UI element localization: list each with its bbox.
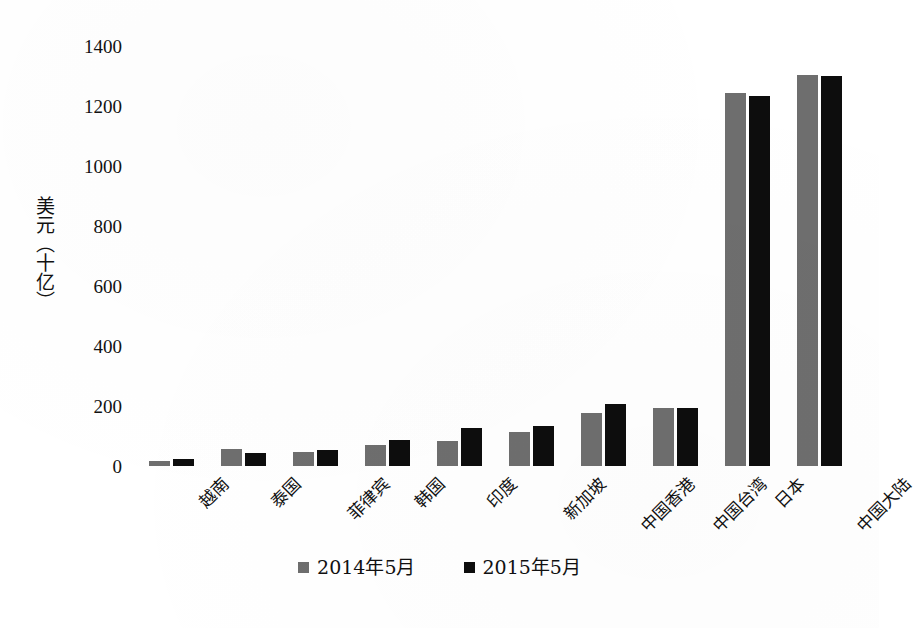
x-tick-label: 越南 <box>195 474 232 511</box>
chart-legend: 2014年5月2015年5月 <box>0 558 879 577</box>
y-tick-label: 1200 <box>60 97 122 116</box>
y-tick-label: 600 <box>60 277 122 296</box>
legend-label: 2015年5月 <box>483 558 581 577</box>
y-tick-label: 800 <box>60 217 122 236</box>
legend-item[interactable]: 2015年5月 <box>464 558 581 577</box>
x-tick-label: 菲律宾 <box>344 474 393 523</box>
y-tick-label: 1400 <box>60 37 122 56</box>
y-axis-tick-labels: 1400120010008006004002000 <box>60 0 122 628</box>
legend-swatch-icon <box>298 562 309 573</box>
x-tick-label: 泰国 <box>267 474 304 511</box>
y-axis-title: 美元（十亿） <box>24 196 54 310</box>
legend-swatch-icon <box>464 562 475 573</box>
x-tick-label: 中国台湾 <box>709 474 770 535</box>
y-tick-label: 0 <box>60 457 122 476</box>
x-tick-label: 中国香港 <box>637 474 698 535</box>
x-tick-label: 新加坡 <box>560 474 609 523</box>
x-axis-tick-labels: 越南泰国菲律宾韩国印度新加坡中国香港中国台湾日本中国大陆 <box>135 0 855 628</box>
y-tick-label: 400 <box>60 337 122 356</box>
x-tick-label: 印度 <box>483 474 520 511</box>
legend-label: 2014年5月 <box>317 558 415 577</box>
y-tick-label: 200 <box>60 397 122 416</box>
x-tick-label: 中国大陆 <box>853 474 914 535</box>
y-tick-label: 1000 <box>60 157 122 176</box>
legend-item[interactable]: 2014年5月 <box>298 558 415 577</box>
x-tick-label: 韩国 <box>411 474 448 511</box>
x-tick-label: 日本 <box>771 474 808 511</box>
